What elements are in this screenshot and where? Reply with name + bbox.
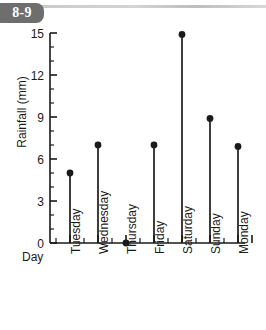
x-tick-label-sunday: Sunday xyxy=(209,213,223,254)
data-stems xyxy=(70,34,238,243)
plot-area xyxy=(0,0,266,330)
x-tick-label-wednesday: Wednesday xyxy=(97,191,111,254)
x-tick-label-friday: Friday xyxy=(153,221,167,254)
marker-saturday xyxy=(179,31,186,38)
x-tick-label-tuesday: Tuesday xyxy=(69,208,83,254)
marker-wednesday xyxy=(95,142,102,149)
x-tick-label-saturday: Saturday xyxy=(181,206,195,254)
x-tick-label-monday: Monday xyxy=(237,211,251,254)
x-tick-label-thursday: Thursday xyxy=(125,204,139,254)
x-axis-title: Day xyxy=(22,250,43,264)
marker-tuesday xyxy=(67,170,74,177)
marker-friday xyxy=(151,142,158,149)
rainfall-chart: Rainfall (mm) 15 12 9 6 3 0 Day Tuesday … xyxy=(0,0,266,330)
marker-sunday xyxy=(207,115,214,122)
marker-monday xyxy=(235,143,242,150)
